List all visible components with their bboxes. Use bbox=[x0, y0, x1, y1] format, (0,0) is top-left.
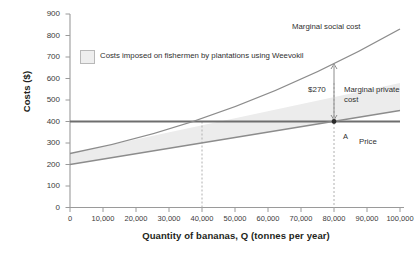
y-tick-label: 500 bbox=[30, 95, 60, 104]
point-a-marker bbox=[332, 119, 337, 124]
y-tick-marks bbox=[66, 14, 71, 208]
y-tick-label: 600 bbox=[30, 74, 60, 83]
externality-gap-label: $270 bbox=[308, 85, 326, 94]
y-tick-label: 200 bbox=[30, 160, 60, 169]
legend-label: Costs imposed on fishermen by plantation… bbox=[100, 51, 304, 60]
y-tick-label: 400 bbox=[30, 117, 60, 126]
marginal-social-cost-label: Marginal social cost bbox=[292, 22, 360, 31]
y-tick-label: 700 bbox=[30, 52, 60, 61]
x-axis-label: Quantity of bananas, Q (tonnes per year) bbox=[60, 230, 412, 241]
y-tick-label: 900 bbox=[30, 9, 60, 18]
y-tick-label: 300 bbox=[30, 138, 60, 147]
price-label: Price bbox=[359, 137, 377, 146]
y-tick-label: 800 bbox=[30, 31, 60, 40]
x-tick-label: 100,000 bbox=[378, 214, 418, 223]
legend-swatch bbox=[80, 50, 95, 64]
x-tick-marks bbox=[70, 208, 400, 213]
marginal-private-cost-label: Marginal private cost bbox=[344, 85, 404, 105]
y-tick-label: 100 bbox=[30, 181, 60, 190]
point-a-label: A bbox=[343, 132, 348, 141]
y-tick-label: 0 bbox=[30, 203, 60, 212]
